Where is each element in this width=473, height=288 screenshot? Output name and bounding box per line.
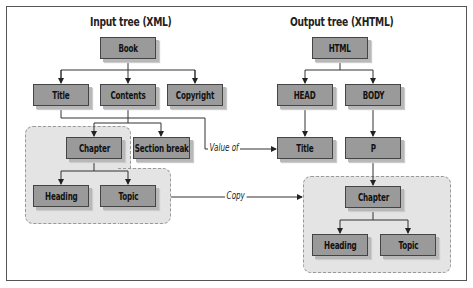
output-node-title: Title [277, 137, 333, 159]
node-label: Title [296, 143, 313, 154]
input-node-copyright: Copyright [167, 84, 223, 106]
output-node-head: HEAD [277, 84, 333, 106]
node-label: HTML [329, 43, 351, 54]
node-label: Copyright [176, 90, 214, 101]
node-label: P [370, 143, 375, 154]
input-node-section-break: Section break [133, 137, 190, 159]
node-label: HEAD [294, 90, 316, 101]
input-node-chapter: Chapter [66, 137, 122, 159]
node-label: Section break [135, 143, 189, 154]
node-label: Title [52, 90, 69, 101]
copy-label: Copy [225, 190, 246, 201]
node-label: Book [118, 43, 138, 54]
node-label: Chapter [78, 143, 109, 154]
output-node-p: P [345, 137, 401, 159]
input-node-heading: Heading [33, 185, 89, 207]
node-label: Topic [398, 240, 418, 251]
output-node-html: HTML [312, 37, 368, 59]
node-label: Chapter [357, 192, 388, 203]
output-node-heading: Heading [312, 234, 368, 256]
node-label: Heading [324, 240, 357, 251]
input-node-contents: Contents [100, 84, 156, 106]
input-node-topic: Topic [100, 185, 156, 207]
output-node-chapter: Chapter [345, 186, 401, 208]
value-of-label: Value of [208, 142, 240, 153]
node-label: Contents [110, 90, 145, 101]
input-node-title: Title [33, 84, 89, 106]
node-label: BODY [362, 90, 384, 101]
input-node-book: Book [100, 37, 156, 59]
node-label: Heading [45, 191, 78, 202]
node-label: Topic [118, 191, 138, 202]
output-node-body: BODY [345, 84, 401, 106]
output-node-topic: Topic [380, 234, 436, 256]
